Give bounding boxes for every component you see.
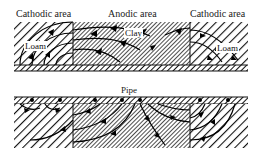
corrosion-cell-diagram (0, 0, 260, 156)
lower-soil-section (14, 104, 248, 148)
pipe-label: Pipe (121, 85, 137, 95)
cathodic-area-left-label: Cathodic area (16, 9, 71, 19)
loam-left-tag: Loam (24, 41, 47, 51)
lower-pipe (14, 97, 248, 104)
upper-pipe (14, 65, 248, 71)
cathodic-area-right-label: Cathodic area (190, 9, 245, 19)
loam-right-tag: Loam (216, 43, 239, 53)
left-loam-region-lower (14, 104, 73, 148)
clay-tag: Clay (124, 28, 143, 38)
anodic-area-label: Anodic area (108, 9, 157, 19)
